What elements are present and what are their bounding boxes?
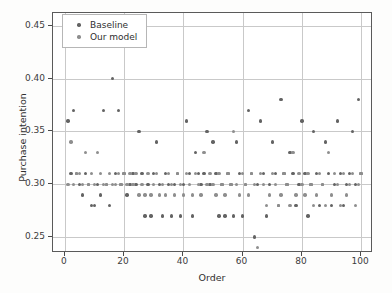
x-tick-label: 20 <box>117 256 128 266</box>
legend-marker-icon <box>68 35 90 38</box>
data-point <box>81 183 84 186</box>
data-point <box>309 183 312 186</box>
data-point <box>197 172 200 175</box>
gridline-vertical <box>124 13 125 251</box>
data-point <box>220 183 223 186</box>
data-point <box>268 193 271 196</box>
data-point <box>72 183 75 186</box>
data-point <box>324 204 327 207</box>
data-point <box>241 172 244 175</box>
legend-label: Our model <box>90 32 137 42</box>
data-point <box>191 193 194 196</box>
data-point <box>297 172 300 175</box>
gridline-horizontal <box>53 131 371 132</box>
data-point <box>256 246 259 249</box>
data-point <box>312 130 315 133</box>
data-point <box>253 235 256 238</box>
data-point <box>99 172 102 175</box>
data-point <box>303 193 306 196</box>
data-point <box>223 214 226 217</box>
data-point <box>69 140 72 143</box>
gridline-vertical <box>65 13 66 251</box>
data-point <box>274 172 277 175</box>
data-point <box>247 193 250 196</box>
data-point <box>102 109 105 112</box>
data-point <box>279 193 282 196</box>
data-point <box>69 172 72 175</box>
data-point <box>131 183 134 186</box>
data-point <box>146 172 149 175</box>
data-point <box>223 193 226 196</box>
data-point <box>282 172 285 175</box>
data-point <box>250 172 253 175</box>
data-point <box>158 193 161 196</box>
legend-item-our-model[interactable]: Our model <box>68 31 137 43</box>
data-point <box>108 204 111 207</box>
data-point <box>155 140 158 143</box>
data-point <box>359 172 362 175</box>
data-point <box>149 214 152 217</box>
data-point <box>211 183 214 186</box>
gridline-horizontal <box>53 79 371 80</box>
data-point <box>351 172 354 175</box>
gridline-vertical <box>302 13 303 251</box>
legend-item-baseline[interactable]: Baseline <box>68 19 137 31</box>
data-point <box>155 172 158 175</box>
data-point <box>185 172 188 175</box>
data-point <box>205 183 208 186</box>
data-point <box>244 183 247 186</box>
data-point <box>140 183 143 186</box>
data-point <box>170 214 173 217</box>
data-point <box>108 172 111 175</box>
data-point <box>125 193 128 196</box>
data-point <box>179 214 182 217</box>
data-point <box>321 183 324 186</box>
data-point <box>327 151 330 154</box>
data-point <box>306 172 309 175</box>
data-point <box>357 183 360 186</box>
data-point <box>238 193 241 196</box>
data-point <box>143 193 146 196</box>
data-point <box>194 151 197 154</box>
data-point <box>90 172 93 175</box>
data-point <box>268 183 271 186</box>
data-point <box>84 172 87 175</box>
data-point <box>324 140 327 143</box>
data-point <box>232 130 235 133</box>
data-point <box>96 151 99 154</box>
data-point <box>161 183 164 186</box>
y-tick-label: 0.25 <box>25 231 45 241</box>
data-point <box>117 109 120 112</box>
data-point <box>182 193 185 196</box>
data-point <box>66 183 69 186</box>
data-point <box>202 151 205 154</box>
data-point <box>277 204 280 207</box>
data-point <box>182 183 185 186</box>
data-point <box>152 183 155 186</box>
legend-marker-icon <box>68 23 90 26</box>
data-point <box>146 183 149 186</box>
data-point <box>330 204 333 207</box>
x-tick-label: 40 <box>177 256 188 266</box>
data-point <box>217 214 220 217</box>
data-point <box>235 183 238 186</box>
data-point <box>173 183 176 186</box>
data-point <box>259 119 262 122</box>
data-point <box>134 172 137 175</box>
data-point <box>176 172 179 175</box>
data-point <box>300 119 303 122</box>
data-point <box>199 193 202 196</box>
chart-legend[interactable]: Baseline Our model <box>62 14 147 48</box>
data-point <box>229 183 232 186</box>
data-point <box>122 172 125 175</box>
data-point <box>179 183 182 186</box>
data-point <box>84 151 87 154</box>
data-point <box>342 172 345 175</box>
x-tick-label: 100 <box>352 256 369 266</box>
data-point <box>318 204 321 207</box>
data-point <box>336 119 339 122</box>
data-point <box>143 214 146 217</box>
y-tick-label: 0.45 <box>25 20 45 30</box>
data-point <box>149 193 152 196</box>
data-point <box>188 183 191 186</box>
